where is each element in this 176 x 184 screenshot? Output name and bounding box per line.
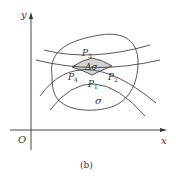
svg-text:4: 4 [74, 76, 78, 83]
diagram: y x O Δσ σ P 3 P 4 P 1 P 2 (b) [0, 0, 176, 184]
cell-label: Δσ [84, 62, 98, 72]
y-axis-arrow [29, 12, 33, 19]
point-p4-label: P 4 [67, 72, 78, 83]
figure-caption: (b) [80, 160, 93, 170]
point-p2-label: P 2 [107, 72, 118, 83]
region-label: σ [95, 95, 103, 106]
svg-text:3: 3 [88, 52, 92, 59]
x-axis-label: x [161, 135, 167, 146]
point-p3-label: P 3 [81, 48, 92, 59]
svg-text:2: 2 [114, 76, 118, 83]
y-axis-label: y [20, 9, 27, 20]
x-axis-arrow [160, 128, 167, 132]
origin-label: O [18, 134, 26, 145]
point-p1-label: P 1 [87, 79, 98, 90]
svg-text:1: 1 [94, 83, 98, 90]
